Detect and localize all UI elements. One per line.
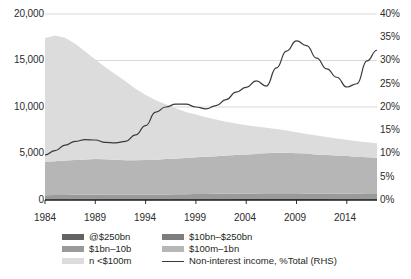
legend-label-non-interest-income: Non-interest income, %Total (RHS) [189, 255, 337, 267]
legend-item-1bn-10b[interactable]: $1bn–10b [62, 243, 162, 255]
legend-swatch-100m-1bn [162, 246, 184, 252]
legend-line-swatch-non-interest-income [162, 258, 184, 264]
legend-swatch-over-250bn [62, 234, 84, 240]
chart-container: 20,000 15,000 10,000 5,000 0 40% 35% 30%… [0, 0, 411, 279]
legend-row-2: $1bn–10b $100m–1bn [62, 243, 362, 255]
legend-label-10bn-250bn: $10bn–$250bn [189, 231, 252, 243]
legend-item-over-250bn[interactable]: @$250bn [62, 231, 162, 243]
legend-item-non-interest-income[interactable]: Non-interest income, %Total (RHS) [162, 255, 362, 267]
legend-swatch-10bn-250bn [162, 234, 184, 240]
area-band-n-100m [45, 36, 377, 162]
legend-swatch-1bn-10b [62, 246, 84, 252]
legend-item-under-100m[interactable]: n <$100m [62, 255, 162, 267]
legend-row-3: n <$100m Non-interest income, %Total (RH… [62, 255, 362, 267]
legend-swatch-under-100m [62, 258, 84, 264]
legend-label-1bn-10b: $1bn–10b [89, 243, 131, 255]
legend-row-1: @$250bn $10bn–$250bn [62, 231, 362, 243]
chart-legend: @$250bn $10bn–$250bn $1bn–10b $100m–1bn … [62, 231, 362, 267]
legend-item-10bn-250bn[interactable]: $10bn–$250bn [162, 231, 362, 243]
legend-label-100m-1bn: $100m–1bn [189, 243, 239, 255]
legend-label-under-100m: n <$100m [89, 255, 132, 267]
legend-item-100m-1bn[interactable]: $100m–1bn [162, 243, 362, 255]
legend-label-over-250bn: @$250bn [89, 231, 130, 243]
